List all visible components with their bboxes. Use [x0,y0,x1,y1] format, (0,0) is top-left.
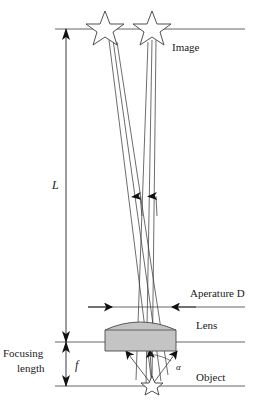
image-star-left [86,11,124,45]
angle-alpha-arc [150,354,171,361]
object-star [141,376,163,395]
label-focusing-length-line2: length [17,362,45,374]
image-star-right [133,11,171,45]
dimension-f: f [62,341,80,387]
dimension-f-label: f [75,358,80,372]
lens-shape [105,322,176,351]
label-lens: Lens [196,319,217,331]
dimension-L: L [51,28,70,343]
label-focusing-length-line1: Focusing [3,347,44,359]
object-ray-right [152,351,177,385]
label-image: Image [172,41,200,53]
dimension-L-label: L [51,178,59,192]
label-angle-alpha: α [176,362,181,372]
label-object: Object [196,371,225,383]
lens-body [105,322,176,351]
label-aperture: Aperature D [190,287,245,299]
image-stars [86,11,171,45]
ray-arrow-right [156,196,157,216]
object-star-shape [141,376,163,395]
optical-ray-diagram: L f Image Aperature D Lens Object α Focu… [0,0,261,406]
